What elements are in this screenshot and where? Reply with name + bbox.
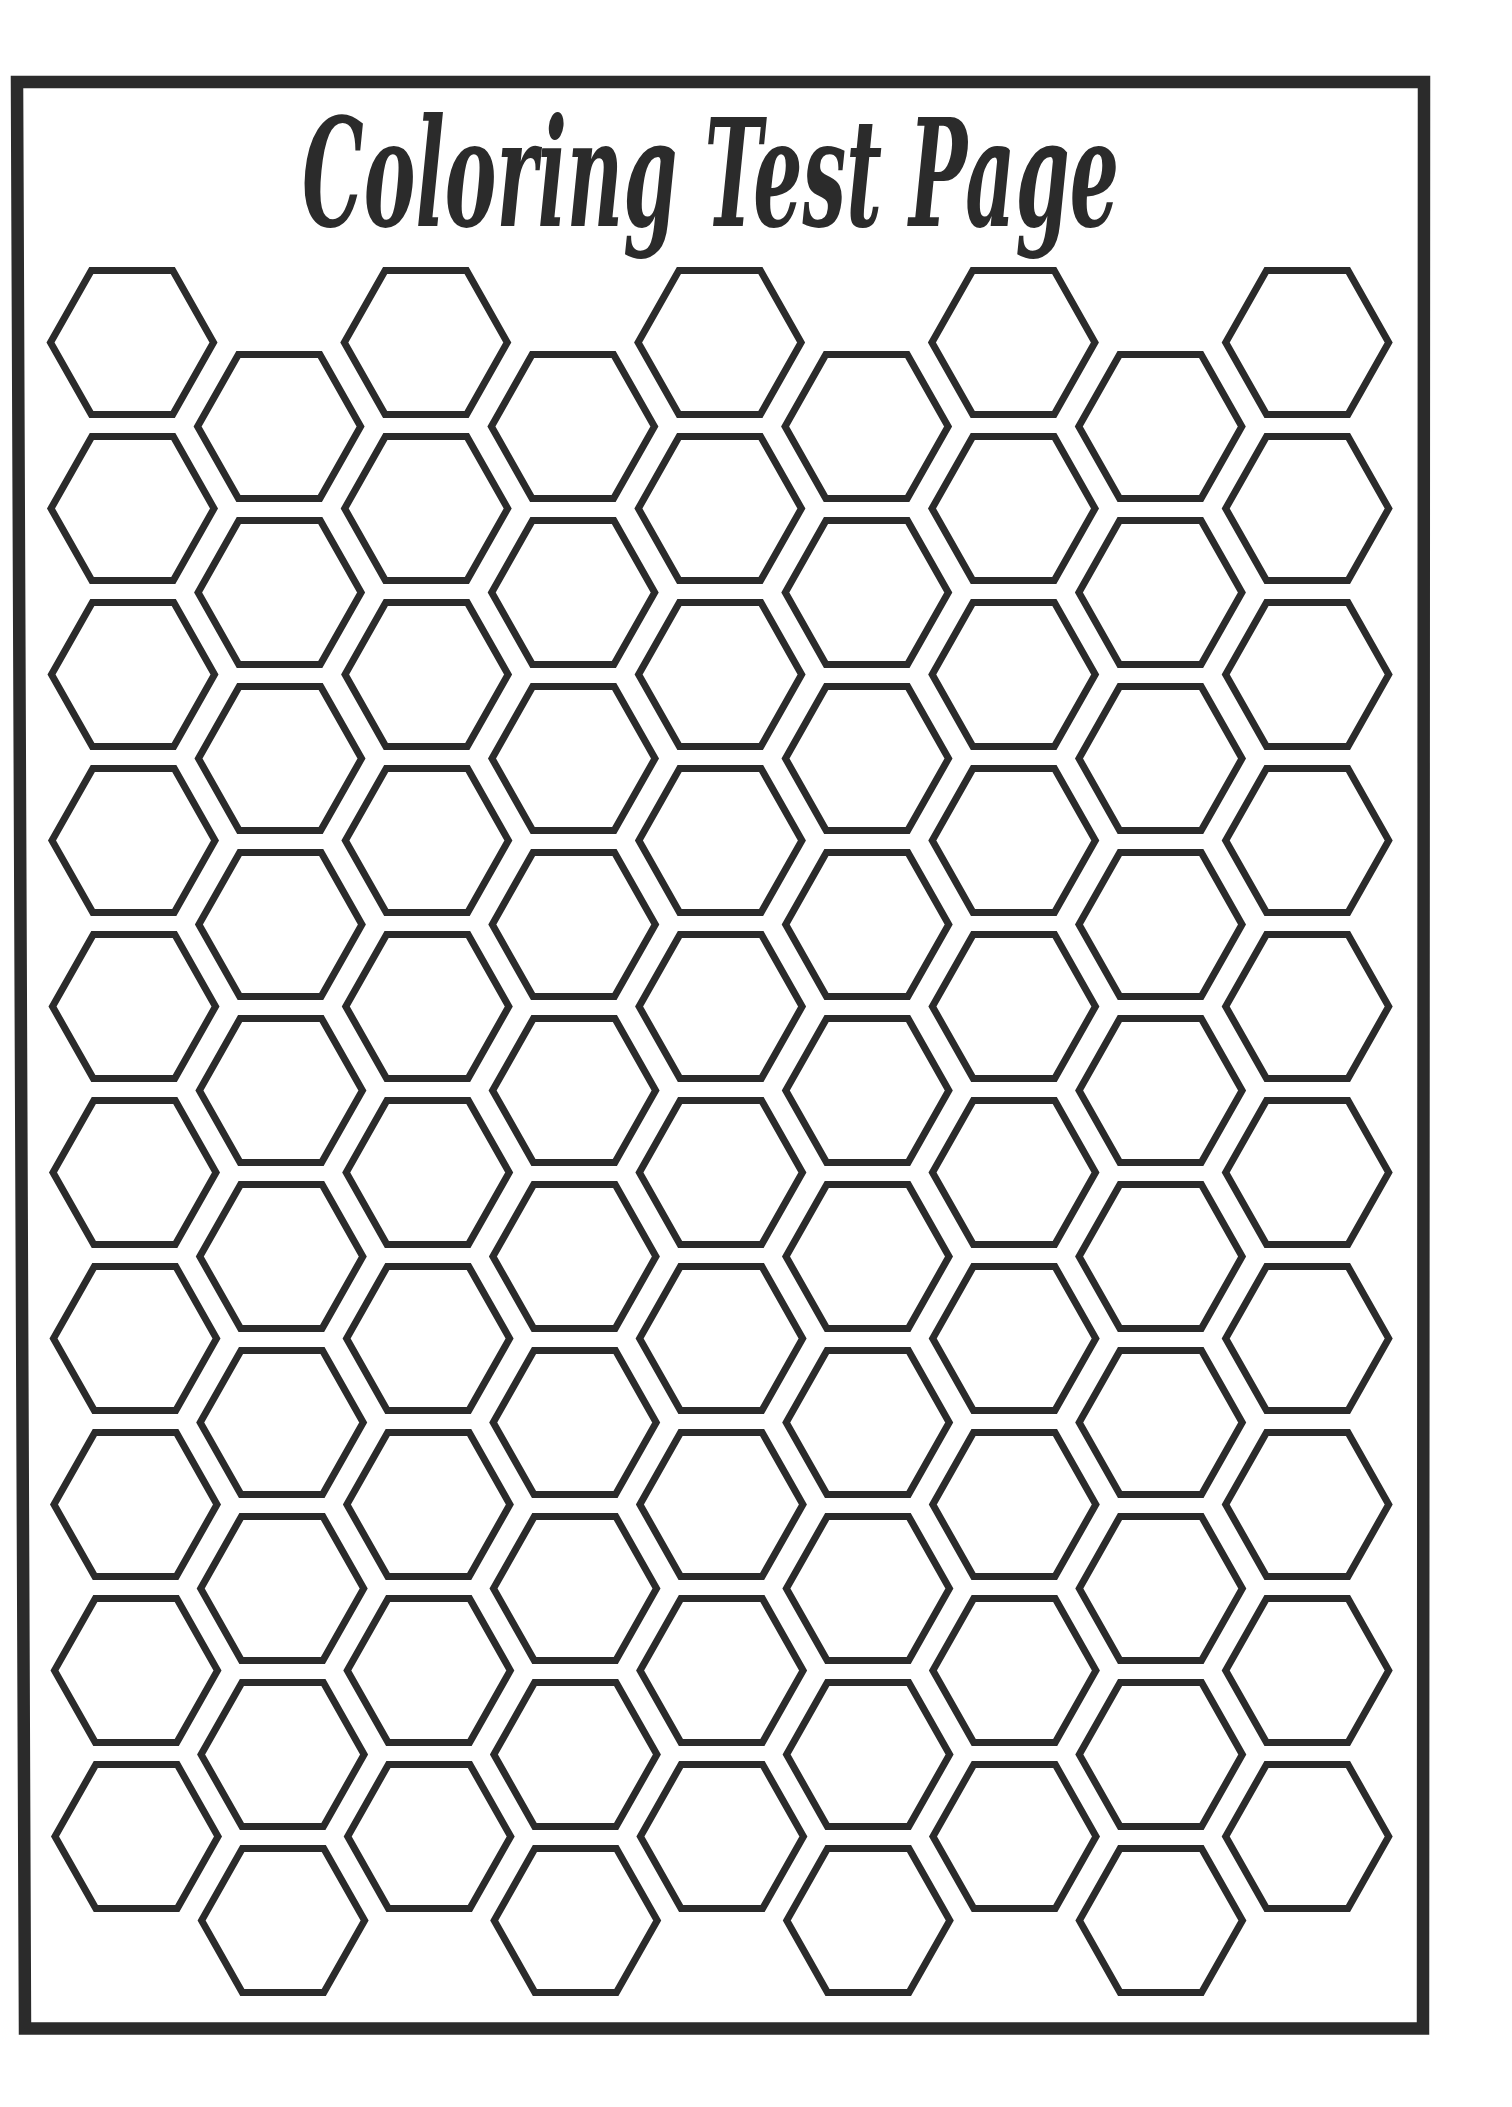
coloring-page: Coloring Test Page [0, 0, 1512, 2107]
hexagon-grid [51, 271, 1389, 1993]
page-title: Coloring Test Page [302, 85, 1119, 261]
